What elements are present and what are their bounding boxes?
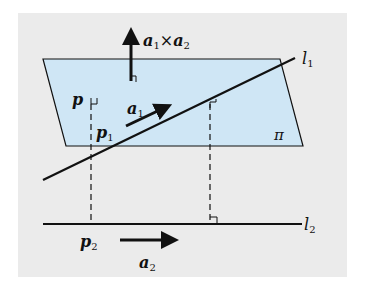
label-point-p2: p2 xyxy=(80,232,98,252)
label-point-p: p xyxy=(72,90,83,109)
diagram-canvas: a1×a2 l1 l2 π p p1 p2 a1 a2 xyxy=(0,0,365,285)
label-direction-a2: a2 xyxy=(139,253,156,273)
label-l1: l1 xyxy=(302,49,314,69)
label-normal-vector: a1×a2 xyxy=(143,31,190,51)
label-plane-pi: π xyxy=(273,126,285,144)
label-l2: l2 xyxy=(304,215,316,235)
